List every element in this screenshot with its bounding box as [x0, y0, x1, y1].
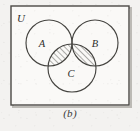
universal-set-label: U	[17, 12, 26, 24]
set-c-label: C	[67, 68, 75, 79]
venn-diagram-figure: U A B C (b)	[0, 0, 140, 131]
figure-caption: (b)	[0, 107, 140, 119]
set-b-label: B	[92, 38, 99, 49]
set-a-label: A	[38, 38, 46, 49]
universal-set-rectangle	[11, 6, 129, 105]
